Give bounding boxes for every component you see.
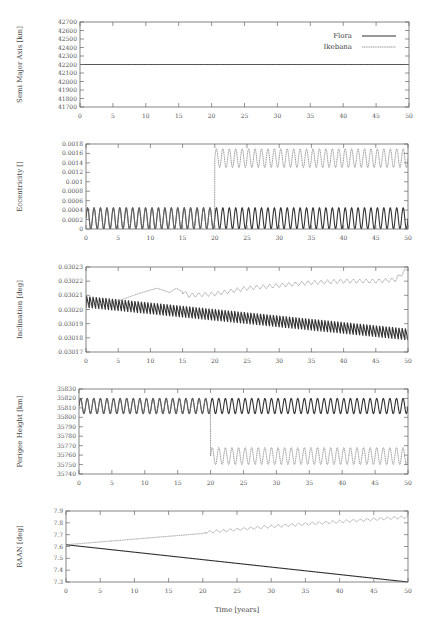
x-tick-label: 45 bbox=[372, 234, 380, 241]
y-tick-label: 0.0012 bbox=[62, 168, 83, 175]
x-tick-label: 45 bbox=[372, 357, 380, 364]
y-tick-label: 7.8 bbox=[53, 519, 63, 526]
y-tick-label: 41700 bbox=[58, 103, 77, 110]
x-tick-label: 35 bbox=[308, 357, 316, 364]
x-tick-label: 15 bbox=[175, 112, 183, 119]
y-tick-label: 42400 bbox=[58, 44, 77, 51]
x-tick-label: 20 bbox=[208, 112, 216, 119]
y-tick-label: 41900 bbox=[58, 86, 77, 93]
x-tick-label: 20 bbox=[207, 479, 215, 486]
x-tick-label: 10 bbox=[142, 112, 150, 119]
x-tick-label: 30 bbox=[275, 234, 283, 241]
orbital-elements-figure: 0510152025303540455041700418004190042000… bbox=[0, 0, 425, 628]
x-tick-label: 15 bbox=[165, 587, 173, 594]
y-tick-label: 0.0014 bbox=[62, 159, 83, 166]
legend-label-flora: Flora bbox=[333, 32, 352, 40]
x-tick-label: 50 bbox=[404, 479, 412, 486]
y-tick-label: 0.03019 bbox=[58, 320, 83, 327]
y-tick-label: 42700 bbox=[58, 18, 77, 25]
x-tick-label: 50 bbox=[404, 234, 412, 241]
x-tick-label: 15 bbox=[179, 234, 187, 241]
y-tick-label: 0.03018 bbox=[58, 334, 83, 341]
x-tick-label: 50 bbox=[405, 112, 413, 119]
x-tick-label: 30 bbox=[273, 479, 281, 486]
x-tick-label: 50 bbox=[404, 587, 412, 594]
x-tick-label: 45 bbox=[372, 112, 380, 119]
y-tick-label: 42300 bbox=[58, 52, 77, 59]
x-tick-label: 40 bbox=[339, 112, 347, 119]
x-axis-title: Time [years] bbox=[215, 606, 260, 614]
raan-panel: 051015202530354045507.37.47.57.67.77.87.… bbox=[16, 507, 412, 594]
x-tick-label: 0 bbox=[77, 479, 81, 486]
x-tick-label: 40 bbox=[340, 234, 348, 241]
y-tick-label: 35800 bbox=[57, 413, 76, 420]
x-tick-label: 5 bbox=[116, 234, 120, 241]
y-tick-label: 7.7 bbox=[53, 531, 63, 538]
x-tick-label: 15 bbox=[179, 357, 187, 364]
x-tick-label: 25 bbox=[240, 479, 248, 486]
y-tick-label: 0.03021 bbox=[58, 291, 83, 298]
y-tick-label: 35770 bbox=[57, 442, 76, 449]
ikebana-series-line bbox=[66, 516, 408, 545]
y-axis-title: Inclination [deg] bbox=[16, 280, 24, 339]
x-tick-label: 0 bbox=[84, 357, 88, 364]
x-tick-label: 45 bbox=[371, 479, 379, 486]
x-tick-label: 5 bbox=[110, 479, 114, 486]
y-tick-label: 35820 bbox=[57, 394, 76, 401]
x-tick-label: 10 bbox=[147, 234, 155, 241]
y-tick-label: 35810 bbox=[57, 404, 76, 411]
x-tick-label: 15 bbox=[174, 479, 182, 486]
y-axis-title: RAAN [deg] bbox=[16, 525, 24, 568]
y-tick-label: 0.0008 bbox=[62, 187, 83, 194]
y-tick-label: 0.03020 bbox=[58, 306, 83, 313]
y-tick-label: 0.0004 bbox=[62, 206, 83, 213]
ikebana-series-line bbox=[86, 269, 408, 305]
x-tick-label: 30 bbox=[274, 112, 282, 119]
y-tick-label: 7.3 bbox=[53, 578, 63, 585]
y-tick-label: 0.03022 bbox=[58, 277, 83, 284]
x-tick-label: 25 bbox=[243, 234, 251, 241]
legend-label-ikebana: Ikebana bbox=[324, 43, 353, 51]
x-tick-label: 20 bbox=[211, 234, 219, 241]
y-tick-label: 0.0016 bbox=[62, 149, 83, 156]
x-tick-label: 25 bbox=[241, 112, 249, 119]
y-tick-label: 7.9 bbox=[53, 507, 63, 514]
x-tick-label: 20 bbox=[199, 587, 207, 594]
flora-series-line bbox=[86, 296, 408, 340]
x-tick-label: 35 bbox=[302, 587, 310, 594]
x-tick-label: 30 bbox=[275, 357, 283, 364]
x-tick-label: 25 bbox=[233, 587, 241, 594]
semi-major-axis-panel: 0510152025303540455041700418004190042000… bbox=[16, 18, 413, 119]
y-tick-label: 7.6 bbox=[53, 543, 63, 550]
y-tick-label: 0.0002 bbox=[62, 216, 83, 223]
y-tick-label: 35830 bbox=[57, 385, 76, 392]
y-axis-title: Perigee Height [km] bbox=[16, 395, 24, 467]
y-tick-label: 0.03023 bbox=[58, 263, 83, 270]
eccentricity-panel: 0510152025303540455000.00020.00040.00060… bbox=[16, 140, 412, 241]
y-tick-label: 0.0018 bbox=[62, 140, 83, 147]
y-tick-label: 7.4 bbox=[53, 566, 63, 573]
x-tick-label: 10 bbox=[147, 357, 155, 364]
legend: FloraIkebana bbox=[324, 32, 397, 51]
x-tick-label: 5 bbox=[116, 357, 120, 364]
x-tick-label: 10 bbox=[141, 479, 149, 486]
y-tick-label: 42600 bbox=[58, 27, 77, 34]
perigee-height-panel: 0510152025303540455035740357503576035770… bbox=[16, 385, 412, 486]
y-tick-label: 7.5 bbox=[53, 554, 63, 561]
x-tick-label: 0 bbox=[64, 587, 68, 594]
y-tick-label: 0.001 bbox=[66, 178, 83, 185]
y-tick-label: 42500 bbox=[58, 35, 77, 42]
y-axis-title: Semi Major Axis [km] bbox=[16, 26, 24, 103]
y-tick-label: 42000 bbox=[58, 78, 77, 85]
x-tick-label: 35 bbox=[305, 479, 313, 486]
x-tick-label: 45 bbox=[370, 587, 378, 594]
x-tick-label: 25 bbox=[243, 357, 251, 364]
x-tick-label: 35 bbox=[308, 234, 316, 241]
x-tick-label: 5 bbox=[98, 587, 102, 594]
plot-frame bbox=[79, 389, 408, 474]
y-tick-label: 0 bbox=[79, 225, 83, 232]
x-tick-label: 0 bbox=[78, 112, 82, 119]
x-tick-label: 5 bbox=[111, 112, 115, 119]
y-tick-label: 35740 bbox=[57, 470, 76, 477]
x-tick-label: 40 bbox=[340, 357, 348, 364]
